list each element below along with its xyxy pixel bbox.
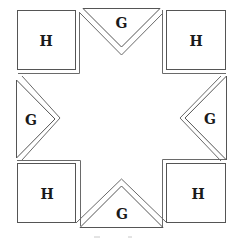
piece-label-h: H xyxy=(40,186,53,202)
square-piece-top-right: H xyxy=(163,10,227,74)
piece-label-g: G xyxy=(25,112,37,128)
square-piece-bottom-left: H xyxy=(17,161,81,227)
triangle-piece-right: G xyxy=(180,76,227,161)
square-piece-top-left: H xyxy=(18,11,80,74)
piece-label-h: H xyxy=(39,33,52,49)
triangle-piece-top: G xyxy=(80,9,163,56)
triangle-piece-bottom: G xyxy=(76,179,167,228)
piece-label-g: G xyxy=(116,15,128,31)
triangle-piece-left: G xyxy=(17,76,61,160)
piece-label-g: G xyxy=(204,111,216,127)
square-piece-bottom-right: H xyxy=(163,160,227,228)
piece-label-h: H xyxy=(189,33,202,49)
piece-label-h: H xyxy=(191,186,204,202)
piece-label-g: G xyxy=(116,206,128,222)
star-block-diagram: H H H H G G G G xyxy=(0,0,238,238)
